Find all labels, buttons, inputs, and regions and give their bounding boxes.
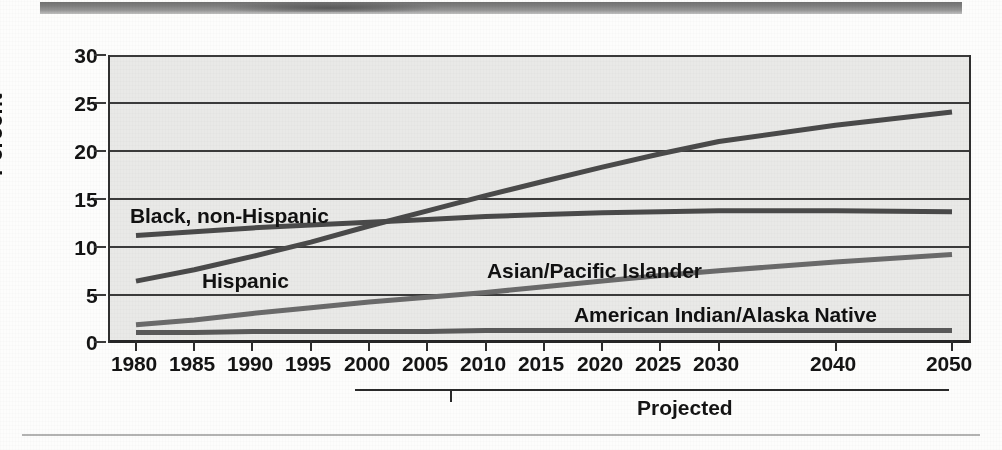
y-tick-label-20: 20 bbox=[52, 140, 98, 164]
y-tick-label-10: 10 bbox=[52, 236, 98, 260]
x-tick-mark-2030 bbox=[718, 340, 720, 351]
y-tick-mark-0 bbox=[94, 341, 106, 343]
y-tick-mark-10 bbox=[94, 246, 106, 248]
y-tick-mark-25 bbox=[94, 102, 106, 104]
y-tick-mark-20 bbox=[94, 150, 106, 152]
projected-bracket-line bbox=[355, 389, 949, 391]
y-axis-title: Percent bbox=[0, 93, 8, 176]
x-tick-label-1985: 1985 bbox=[169, 352, 215, 376]
plot-inner: Black, non-Hispanic Hispanic Asian/Pacif… bbox=[110, 55, 969, 343]
x-tick-mark-1995 bbox=[310, 340, 312, 351]
y-tick-label-0: 0 bbox=[52, 331, 98, 355]
x-tick-mark-2025 bbox=[659, 340, 661, 351]
series-label-hispanic: Hispanic bbox=[202, 269, 289, 293]
x-tick-label-2005: 2005 bbox=[402, 352, 448, 376]
y-tick-mark-15 bbox=[94, 198, 106, 200]
x-tick-label-2025: 2025 bbox=[635, 352, 681, 376]
series-line-american-indian-alaska-native bbox=[136, 331, 952, 333]
x-tick-label-2000: 2000 bbox=[344, 352, 390, 376]
series-label-asian-pacific-islander: Asian/Pacific Islander bbox=[487, 259, 702, 283]
x-tick-mark-1980 bbox=[135, 340, 137, 351]
line-chart-figure: Percent 30 25 20 15 10 5 0 bbox=[0, 0, 1002, 450]
projected-label: Projected bbox=[637, 396, 733, 420]
y-tick-label-30: 30 bbox=[52, 44, 98, 68]
series-line-hispanic bbox=[136, 112, 952, 281]
plot-area: Black, non-Hispanic Hispanic Asian/Pacif… bbox=[108, 55, 971, 343]
x-tick-label-2030: 2030 bbox=[693, 352, 739, 376]
x-tick-mark-1990 bbox=[251, 340, 253, 351]
x-tick-label-2050: 2050 bbox=[926, 352, 972, 376]
x-tick-mark-2010 bbox=[485, 340, 487, 351]
x-tick-mark-2050 bbox=[951, 340, 953, 351]
x-tick-mark-1985 bbox=[193, 340, 195, 351]
y-tick-label-25: 25 bbox=[52, 92, 98, 116]
y-tick-mark-5 bbox=[94, 294, 106, 296]
y-tick-label-15: 15 bbox=[52, 188, 98, 212]
x-tick-mark-2020 bbox=[601, 340, 603, 351]
x-tick-label-2010: 2010 bbox=[460, 352, 506, 376]
series-label-american-indian-alaska-native: American Indian/Alaska Native bbox=[574, 303, 877, 327]
x-tick-mark-2040 bbox=[835, 340, 837, 351]
x-tick-mark-2005 bbox=[426, 340, 428, 351]
y-tick-mark-30 bbox=[94, 54, 106, 56]
series-label-black-non-hispanic: Black, non-Hispanic bbox=[130, 204, 329, 228]
x-tick-mark-2000 bbox=[368, 340, 370, 351]
projected-bracket-tick bbox=[450, 389, 452, 402]
x-tick-label-1980: 1980 bbox=[111, 352, 157, 376]
y-tick-label-5: 5 bbox=[52, 284, 98, 308]
series-lines bbox=[110, 55, 969, 343]
x-tick-label-2015: 2015 bbox=[518, 352, 564, 376]
x-tick-label-2020: 2020 bbox=[577, 352, 623, 376]
x-tick-label-1990: 1990 bbox=[227, 352, 273, 376]
x-tick-mark-2015 bbox=[543, 340, 545, 351]
x-tick-label-2040: 2040 bbox=[810, 352, 856, 376]
x-tick-label-1995: 1995 bbox=[285, 352, 331, 376]
